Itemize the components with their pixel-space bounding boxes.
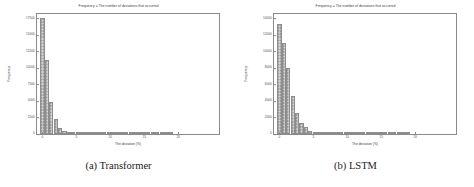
subfigure-caption: (b) LSTM <box>237 160 474 171</box>
x-tick-label: 15 <box>143 134 146 139</box>
x-tick-label: 0 <box>279 134 281 139</box>
y-tick-label: 10000 <box>263 50 274 53</box>
plot-area-b: Frequency = The number of deviations tha… <box>237 0 474 157</box>
plot-area-a: Frequency = The number of deviations tha… <box>0 0 237 157</box>
subfigure-a: Frequency = The number of deviations tha… <box>0 0 237 187</box>
y-tick-label: 0 <box>33 132 37 135</box>
y-tick-label: 15000 <box>26 34 37 37</box>
x-tick-label: 20 <box>414 134 417 139</box>
y-tick-label: 4000 <box>265 100 274 103</box>
y-axis-label: Frequency <box>244 66 248 82</box>
y-tick-label: 10000 <box>26 67 37 70</box>
subfigure-caption: (a) Transformer <box>0 160 237 171</box>
y-tick-label: 0 <box>270 132 274 135</box>
bar-series <box>274 14 456 134</box>
x-tick-label: 10 <box>346 134 349 139</box>
y-tick-label: 7500 <box>28 83 37 86</box>
figure-two-histograms: Frequency = The number of deviations tha… <box>0 0 474 187</box>
y-axis-label: Frequency <box>7 66 11 82</box>
x-axis-label: The deviation (%) <box>36 142 220 146</box>
x-axis-label: The deviation (%) <box>273 142 457 146</box>
chart-title: Frequency = The number of deviations tha… <box>237 4 474 8</box>
bar-series <box>37 14 219 134</box>
x-tick-label: 10 <box>109 134 112 139</box>
chart-title: Frequency = The number of deviations tha… <box>0 4 237 8</box>
y-tick-label: 8000 <box>265 67 274 70</box>
x-tick-label: 5 <box>76 134 78 139</box>
axes-frame: 025005000750010000125001500017500 051015… <box>36 13 220 135</box>
y-tick-label: 6000 <box>265 83 274 86</box>
y-tick-label: 2500 <box>28 116 37 119</box>
y-tick-label: 2000 <box>265 116 274 119</box>
x-tick-label: 20 <box>177 134 180 139</box>
subfigure-b: Frequency = The number of deviations tha… <box>237 0 474 187</box>
y-tick-label: 17500 <box>26 17 37 20</box>
y-tick-label: 5000 <box>28 99 37 102</box>
y-tick-label: 12500 <box>26 50 37 53</box>
y-tick-label: 12000 <box>263 34 274 37</box>
x-tick-label: 15 <box>380 134 383 139</box>
bar <box>168 132 172 134</box>
axes-frame: 02000400060008000100001200014000 0510152… <box>273 13 457 135</box>
x-tick-label: 5 <box>313 134 315 139</box>
bar <box>405 132 409 134</box>
x-tick-label: 0 <box>42 134 44 139</box>
y-tick-label: 14000 <box>263 17 274 20</box>
